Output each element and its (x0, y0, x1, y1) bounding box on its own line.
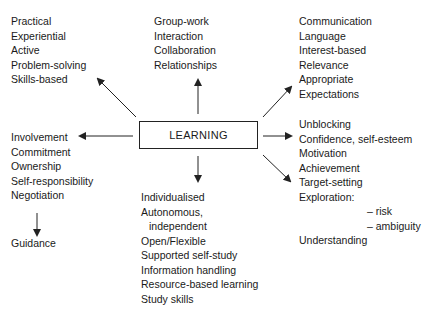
list-item: Achievement (299, 161, 421, 176)
arrow-top-left (98, 79, 136, 117)
list-item: Unblocking (299, 117, 421, 132)
list-item: Confidence, self-esteem (299, 132, 421, 147)
list-item: Understanding (299, 233, 421, 248)
list-item: Commitment (11, 145, 93, 160)
list-item: Target-setting (299, 175, 421, 190)
list-item: Exploration: (299, 190, 421, 205)
list-item: Communication (299, 14, 372, 29)
list-item: Negotiation (11, 188, 93, 203)
guidance-label: Guidance (11, 236, 56, 251)
list-item: Self-responsibility (11, 174, 93, 189)
list-item: Open/Flexible (141, 234, 258, 249)
list-item: Resource-based learning (141, 277, 258, 292)
list-item: Involvement (11, 130, 93, 145)
top-center-list: Group-work Interaction Collaboration Rel… (154, 14, 217, 72)
list-item: Group-work (154, 14, 217, 29)
list-item: Individualised (141, 190, 258, 205)
list-item: – risk (299, 204, 421, 219)
list-item: Expectations (299, 87, 372, 102)
list-item: Practical (11, 14, 86, 29)
left-list: Involvement Commitment Ownership Self-re… (11, 130, 93, 203)
list-item: Active (11, 43, 86, 58)
arrow-top-right (263, 87, 291, 117)
list-item: Interaction (154, 29, 217, 44)
list-item: Collaboration (154, 43, 217, 58)
list-item: Autonomous, (141, 205, 258, 220)
list-item: independent (141, 219, 258, 234)
center-label: LEARNING (169, 129, 228, 141)
arrow-lower-right (263, 155, 290, 181)
list-item: Appropriate (299, 72, 372, 87)
list-item: Supported self-study (141, 248, 258, 263)
list-item: Interest-based (299, 43, 372, 58)
list-item: Language (299, 29, 372, 44)
bottom-list: Individualised Autonomous, independent O… (141, 190, 258, 306)
list-item: Ownership (11, 159, 93, 174)
learning-center-box: LEARNING (139, 121, 258, 149)
list-item: Relationships (154, 58, 217, 73)
top-left-list: Practical Experiential Active Problem-so… (11, 14, 86, 87)
list-item: Skills-based (11, 72, 86, 87)
top-right-list: Communication Language Interest-based Re… (299, 14, 372, 101)
list-item: Motivation (299, 146, 421, 161)
list-item: Problem-solving (11, 58, 86, 73)
list-item: Study skills (141, 292, 258, 307)
right-list: Unblocking Confidence, self-esteem Motiv… (299, 117, 421, 248)
list-item: Relevance (299, 58, 372, 73)
list-item: Information handling (141, 263, 258, 278)
list-item: – ambiguity (299, 219, 421, 234)
list-item: Experiential (11, 29, 86, 44)
